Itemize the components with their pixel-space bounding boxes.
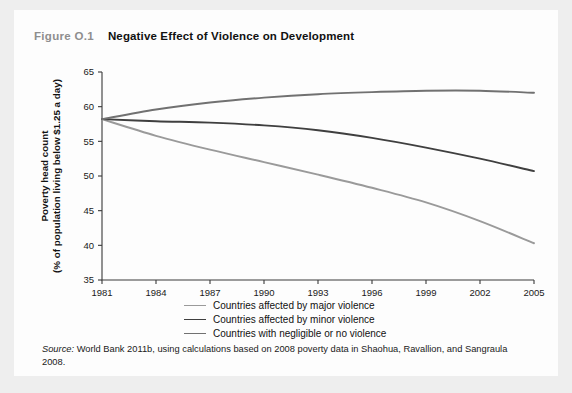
source-note: Source: World Bank 2011b, using calculat…	[42, 343, 532, 369]
y-tick-label: 40	[83, 240, 94, 251]
series-path	[102, 119, 534, 171]
x-axis-ticks: 198119841987199019931996199920022005	[91, 280, 544, 298]
series-path	[102, 91, 534, 120]
x-tick-label: 2005	[523, 287, 544, 298]
x-tick-label: 1987	[199, 287, 220, 298]
y-tick-label: 50	[83, 170, 94, 181]
legend-swatch-negligible	[184, 333, 206, 334]
legend-swatch-major	[184, 305, 206, 306]
y-axis-title-line: Poverty head count	[39, 130, 50, 222]
x-tick-label: 2002	[469, 287, 490, 298]
x-tick-label: 1984	[145, 287, 166, 298]
y-axis-ticks: 35404550556065	[83, 66, 102, 285]
series-path	[102, 119, 534, 243]
x-tick-label: 1999	[415, 287, 436, 298]
legend-label-negligible: Countries with negligible or no violence	[213, 328, 386, 339]
y-axis-title-line: (% of population living below $1.25 a da…	[51, 79, 62, 273]
source-label: Source:	[42, 344, 74, 354]
source-text: World Bank 2011b, using calculations bas…	[42, 344, 507, 367]
legend-item-minor: Countries affected by minor violence	[184, 312, 514, 326]
y-tick-label: 35	[83, 274, 94, 285]
y-tick-label: 65	[83, 66, 94, 77]
y-tick-label: 60	[83, 101, 94, 112]
x-tick-label: 1993	[307, 287, 328, 298]
axis-lines	[102, 72, 534, 280]
y-axis-title: Poverty head count(% of population livin…	[39, 79, 62, 273]
chart-legend: Countries affected by major violence Cou…	[184, 298, 514, 340]
legend-label-minor: Countries affected by minor violence	[213, 314, 375, 325]
x-tick-label: 1981	[91, 287, 112, 298]
legend-swatch-minor	[184, 319, 206, 320]
chart-svg: Poverty head count(% of population livin…	[14, 10, 558, 310]
legend-item-negligible: Countries with negligible or no violence	[184, 326, 514, 340]
y-tick-label: 55	[83, 136, 94, 147]
legend-item-major: Countries affected by major violence	[184, 298, 514, 312]
y-tick-label: 45	[83, 205, 94, 216]
x-tick-label: 1990	[253, 287, 274, 298]
x-tick-label: 1996	[361, 287, 382, 298]
figure-card: Figure O.1Negative Effect of Violence on…	[14, 10, 558, 376]
legend-label-major: Countries affected by major violence	[213, 300, 375, 311]
series-group	[102, 91, 534, 244]
